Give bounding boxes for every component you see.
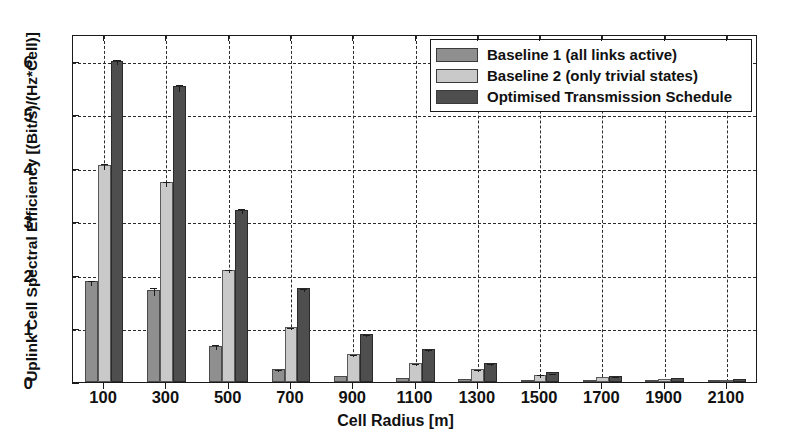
legend-item: Baseline 2 (only trivial states) bbox=[436, 65, 746, 86]
x-axis-tick-label: 500 bbox=[214, 388, 242, 407]
error-bar-cap bbox=[474, 370, 481, 371]
error-bar-cap bbox=[275, 370, 282, 371]
legend-label-optimised: Optimised Transmission Schedule bbox=[487, 89, 732, 104]
x-axis-top-tick-mark bbox=[352, 35, 353, 41]
x-axis-top-tick-mark bbox=[726, 35, 727, 41]
y-axis-tick-mark bbox=[72, 222, 79, 223]
error-bar-cap bbox=[150, 288, 157, 289]
y-axis-tick-mark bbox=[72, 62, 79, 63]
error-bar-cap bbox=[163, 182, 170, 183]
bar-series-1-cat-900 bbox=[347, 354, 360, 382]
y-axis-tick-label: 2 bbox=[24, 267, 33, 284]
error-bar-cap bbox=[287, 328, 294, 329]
x-axis-top-tick-mark bbox=[664, 35, 665, 41]
x-axis-tick-mark bbox=[352, 383, 353, 389]
figure-canvas: Uplink Cell Spectral Efficiency [(Bit/s)… bbox=[0, 0, 791, 445]
legend-swatch-optimised bbox=[436, 90, 478, 104]
y-axis-tick-mark bbox=[72, 383, 79, 384]
x-axis-top-tick-mark bbox=[290, 35, 291, 41]
legend-swatch-baseline-2 bbox=[436, 69, 478, 83]
x-axis-tick-mark bbox=[228, 383, 229, 389]
gridline-vertical bbox=[416, 36, 417, 382]
error-bar-cap bbox=[113, 60, 120, 61]
error-bar-cap bbox=[612, 377, 619, 378]
y-axis-tick-mark bbox=[72, 115, 79, 116]
x-axis-title: Cell Radius [m] bbox=[0, 412, 791, 430]
y-axis-tick-label: 6 bbox=[24, 53, 33, 70]
bar-series-2-cat-100 bbox=[111, 61, 124, 382]
x-axis-top-tick-mark bbox=[539, 35, 540, 41]
bar-series-0-cat-2100 bbox=[708, 380, 721, 382]
x-axis-tick-label: 900 bbox=[338, 388, 366, 407]
error-bar-cap bbox=[425, 350, 432, 351]
x-axis-tick-label: 300 bbox=[152, 388, 180, 407]
legend: Baseline 1 (all links active) Baseline 2… bbox=[430, 39, 752, 112]
bar-series-2-cat-300 bbox=[173, 86, 186, 382]
y-axis-tick-label: 5 bbox=[24, 107, 33, 124]
y-axis-tick-label: 4 bbox=[24, 160, 33, 177]
bar-series-0-cat-1900 bbox=[645, 380, 658, 382]
bar-series-0-cat-500 bbox=[209, 346, 222, 382]
error-bar-cap bbox=[212, 345, 219, 346]
x-axis-top-tick-mark bbox=[477, 35, 478, 41]
bar-series-1-cat-100 bbox=[98, 165, 111, 382]
x-axis-top-tick-mark bbox=[415, 35, 416, 41]
error-bar-cap bbox=[176, 85, 183, 86]
bar-series-1-cat-1700 bbox=[596, 377, 609, 382]
x-axis-tick-mark bbox=[477, 383, 478, 389]
error-bar-cap bbox=[363, 335, 370, 336]
x-axis-tick-mark bbox=[415, 383, 416, 389]
bar-series-2-cat-2100 bbox=[733, 379, 746, 382]
legend-label-baseline-2: Baseline 2 (only trivial states) bbox=[487, 68, 698, 83]
bar-series-2-cat-1100 bbox=[422, 349, 435, 382]
x-axis-tick-mark bbox=[290, 383, 291, 389]
y-axis-tick-mark bbox=[72, 329, 79, 330]
y-axis-tick-label: 1 bbox=[24, 321, 33, 338]
error-bar-cap bbox=[88, 281, 95, 282]
x-axis-tick-label: 1100 bbox=[397, 388, 433, 407]
error-bar-cap bbox=[225, 270, 232, 271]
x-axis-tick-label: 2100 bbox=[708, 388, 745, 407]
legend-item: Optimised Transmission Schedule bbox=[436, 86, 746, 107]
gridline-vertical bbox=[353, 36, 354, 382]
bar-series-0-cat-1100 bbox=[396, 378, 409, 382]
x-axis-tick-mark bbox=[664, 383, 665, 389]
x-axis-top-tick-mark bbox=[601, 35, 602, 41]
bar-series-2-cat-500 bbox=[235, 210, 248, 382]
y-axis-tick-mark bbox=[72, 169, 79, 170]
error-bar-cap bbox=[487, 364, 494, 365]
x-axis-top-tick-mark bbox=[228, 35, 229, 41]
error-bar-stem bbox=[154, 288, 155, 297]
x-axis-tick-label: 100 bbox=[89, 388, 117, 407]
bar-series-1-cat-1900 bbox=[658, 379, 671, 382]
x-axis-tick-label: 1300 bbox=[458, 388, 495, 407]
error-bar-cap bbox=[238, 209, 245, 210]
error-bar-cap bbox=[549, 374, 556, 375]
bar-series-0-cat-1700 bbox=[583, 380, 596, 382]
bar-series-1-cat-300 bbox=[160, 182, 173, 382]
y-axis-tick-label: 3 bbox=[24, 214, 33, 231]
legend-swatch-baseline-1 bbox=[436, 48, 478, 62]
x-axis-tick-mark bbox=[601, 383, 602, 389]
error-bar-cap bbox=[537, 375, 544, 376]
x-axis-tick-mark bbox=[103, 383, 104, 389]
bar-series-0-cat-1500 bbox=[521, 380, 534, 382]
x-axis-tick-mark bbox=[726, 383, 727, 389]
x-axis-tick-label: 1900 bbox=[645, 388, 682, 407]
bar-series-2-cat-700 bbox=[297, 288, 310, 382]
x-axis-top-tick-mark bbox=[165, 35, 166, 41]
x-axis-tick-mark bbox=[539, 383, 540, 389]
error-bar-cap bbox=[412, 364, 419, 365]
bar-series-2-cat-1900 bbox=[671, 378, 684, 382]
x-axis-top-tick-mark bbox=[103, 35, 104, 41]
x-axis-tick-mark bbox=[165, 383, 166, 389]
error-bar-stem bbox=[179, 85, 180, 92]
error-bar-cap bbox=[350, 355, 357, 356]
bar-series-2-cat-900 bbox=[360, 334, 373, 382]
bar-series-0-cat-300 bbox=[147, 290, 160, 382]
bar-series-0-cat-100 bbox=[85, 281, 98, 382]
bar-series-0-cat-1300 bbox=[458, 379, 471, 382]
bar-series-1-cat-2100 bbox=[720, 380, 733, 382]
legend-label-baseline-1: Baseline 1 (all links active) bbox=[487, 47, 677, 62]
y-axis-tick-label: 0 bbox=[24, 375, 33, 392]
